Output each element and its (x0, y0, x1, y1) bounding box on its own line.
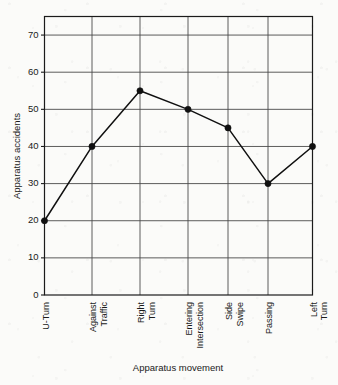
data-point: Against Traffic: 40 (89, 143, 95, 149)
plot-frame (45, 17, 313, 296)
svg-text:Intersection: Intersection (195, 302, 205, 349)
data-point: Side Swipe: 45 (225, 125, 231, 131)
y-tick-label: 20 (28, 214, 39, 225)
x-tick-label: Side (224, 302, 234, 320)
x-tick-label: Turn (147, 302, 157, 320)
svg-text:Right: Right (136, 302, 146, 324)
svg-text:Turn: Turn (319, 302, 329, 320)
x-tick-label: Passing (264, 302, 274, 334)
svg-text:Passing: Passing (264, 302, 274, 334)
svg-text:Turn: Turn (147, 302, 157, 320)
data-point: Left Turn: 40 (309, 143, 315, 149)
svg-text:Entering: Entering (184, 302, 194, 336)
x-tick-label: Intersection (195, 302, 205, 349)
x-tick-labels: U-TurnAgainstTrafficRightTurnEnteringInt… (41, 302, 330, 349)
x-axis-title: Apparatus movement (133, 362, 224, 373)
x-tick-label: Right (136, 302, 146, 324)
x-tick-label: Against (88, 302, 98, 333)
x-tick-label: Left (309, 302, 319, 318)
y-tick-label: 10 (28, 251, 39, 262)
svg-text:Swipe: Swipe (235, 302, 245, 327)
x-tick-label: Entering (184, 302, 194, 336)
series-markers: U-Turn: 20Against Traffic: 40Right Turn:… (41, 88, 315, 224)
line-chart: 010203040506070 U-Turn: 20Against Traffi… (0, 0, 338, 385)
y-tick-label: 50 (28, 103, 39, 114)
data-point: Passing: 30 (265, 181, 271, 187)
data-point: Entering Intersection: 50 (185, 106, 191, 112)
vertical-gridlines (92, 17, 268, 296)
x-tick-label: Swipe (235, 302, 245, 327)
data-point: U-Turn: 20 (41, 218, 47, 224)
svg-text:Left: Left (309, 302, 319, 318)
y-tick-label: 0 (33, 289, 38, 300)
svg-text:Against: Against (88, 302, 98, 333)
series-line-apparatus-accidents (45, 91, 313, 221)
x-tick-label: Turn (319, 302, 329, 320)
svg-text:U-Turn: U-Turn (41, 302, 51, 330)
data-point: Right Turn: 55 (137, 88, 143, 94)
x-tick-label: Traffic (99, 302, 109, 327)
svg-text:Traffic: Traffic (99, 302, 109, 327)
y-tick-label: 60 (28, 66, 39, 77)
y-tick-labels: 010203040506070 (28, 29, 39, 300)
horizontal-gridlines (45, 35, 313, 258)
y-tick-label: 40 (28, 140, 39, 151)
svg-text:Side: Side (224, 302, 234, 320)
y-tick-label: 30 (28, 177, 39, 188)
y-axis-title: Apparatus accidents (11, 113, 22, 199)
x-tick-label: U-Turn (41, 302, 51, 330)
y-tick-label: 70 (28, 29, 39, 40)
chart-canvas: 010203040506070 U-Turn: 20Against Traffi… (0, 0, 338, 385)
